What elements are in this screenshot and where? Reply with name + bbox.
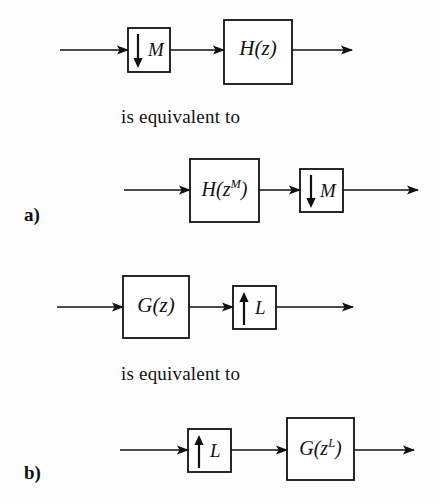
filter-label-hzm-exponent: M (230, 177, 240, 191)
downsampler-rate-label-m-1: M (148, 39, 164, 61)
equivalence-caption-b: is equivalent to (121, 363, 240, 385)
filter-label-gz: G(z) (123, 295, 189, 316)
filter-label-gzl-tail: ) (335, 437, 342, 459)
equivalence-caption-a: is equivalent to (121, 106, 240, 128)
figure-canvas: M H(z) H(zM) M G(z) L L G(zL) is equival… (0, 0, 440, 504)
upsampler-rate-label-l-1: L (255, 297, 266, 319)
filter-label-gzl: G(zL) (287, 438, 354, 458)
filter-label-hz: H(z) (224, 38, 292, 59)
filter-label-gzl-base: G(z (299, 437, 328, 459)
filter-label-hzm: H(zM) (190, 179, 259, 199)
panel-label-a: a) (24, 204, 40, 226)
filter-label-hzm-base: H(z (202, 178, 231, 200)
filter-label-hzm-tail: ) (241, 178, 248, 200)
block-diagram-svg (0, 0, 440, 504)
panel-label-b: b) (24, 462, 41, 484)
downsampler-rate-label-m-2: M (320, 180, 336, 202)
upsampler-rate-label-l-2: L (210, 440, 221, 462)
